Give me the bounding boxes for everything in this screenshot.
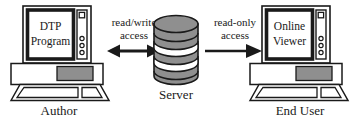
author-workstation[interactable]: DTP Program Author	[11, 6, 109, 118]
read-write-label-line2: access	[120, 29, 148, 41]
author-drive-bay	[57, 67, 93, 81]
diagram-canvas: DTP Program Author read/write access	[0, 0, 353, 121]
end-user-computer-base	[250, 64, 342, 85]
author-caption: Author	[41, 103, 79, 118]
edge-server-to-end-user[interactable]: read-only access	[205, 16, 262, 58]
end-user-drive-bay	[296, 67, 332, 81]
monitor-knob-icon	[80, 50, 84, 54]
monitor-power-button-icon	[318, 12, 323, 17]
read-only-label-line2: access	[221, 29, 249, 41]
bidirectional-arrow-icon	[107, 45, 160, 58]
architecture-diagram: DTP Program Author read/write access	[0, 0, 353, 121]
server-node[interactable]: Server	[154, 16, 198, 103]
server-caption: Server	[159, 87, 194, 102]
end-user-keyboard	[250, 85, 348, 101]
author-keyboard	[11, 85, 109, 101]
end-user-screen-label-line1: Online	[274, 20, 305, 32]
end-user-caption: End User	[276, 103, 325, 118]
monitor-knob-icon	[319, 50, 323, 54]
author-computer-base	[11, 64, 103, 85]
end-user-workstation[interactable]: Online Viewer End User	[250, 6, 348, 118]
author-screen-label-line2: Program	[31, 35, 71, 48]
right-arrow-icon	[205, 44, 262, 58]
monitor-knob-icon	[80, 36, 84, 40]
read-only-label-line1: read-only	[214, 16, 257, 28]
author-screen-label-line1: DTP	[40, 20, 62, 32]
monitor-knob-icon	[80, 43, 84, 47]
monitor-power-button-icon	[79, 12, 84, 17]
read-write-label-line1: read/write	[112, 16, 157, 28]
edge-author-to-server[interactable]: read/write access	[107, 16, 160, 58]
monitor-knob-icon	[319, 36, 323, 40]
monitor-knob-icon	[319, 43, 323, 47]
database-cylinder-icon	[154, 16, 198, 85]
end-user-screen-label-line2: Viewer	[273, 35, 306, 47]
